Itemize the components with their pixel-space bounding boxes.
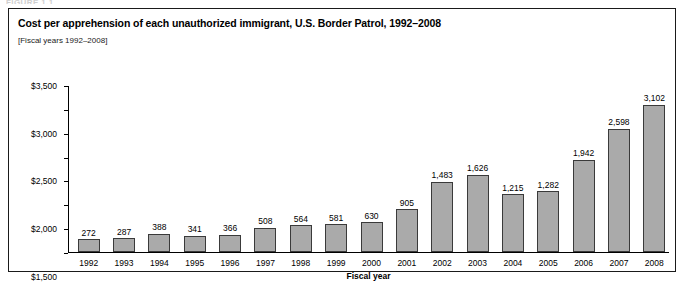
x-axis-tick-label: 1998 — [283, 258, 318, 268]
bar — [396, 209, 418, 252]
bar — [537, 191, 559, 252]
x-axis-tick-label: 2006 — [566, 258, 601, 268]
bar — [608, 129, 630, 252]
bar-column: 2,598 — [608, 86, 630, 252]
bar-value-label: 2,598 — [608, 118, 629, 127]
x-axis-tick-label: 2004 — [495, 258, 530, 268]
x-axis-title: Fiscal year — [68, 271, 669, 281]
x-axis-tick-label: 2003 — [460, 258, 495, 268]
bar-value-label: 1,282 — [538, 181, 559, 190]
bar — [219, 235, 241, 252]
plot-area: $0$500$1,000$1,500$2,000$2,500$3,000$3,5… — [68, 86, 669, 253]
x-axis-tick-label: 1996 — [212, 258, 247, 268]
bar — [78, 239, 100, 252]
y-axis-tick-label: $3,500 — [31, 81, 57, 91]
x-axis-tick-label: 1997 — [248, 258, 283, 268]
bar — [431, 182, 453, 252]
bar-column: 1,626 — [467, 86, 489, 252]
bar-column: 905 — [396, 86, 418, 252]
bar-column: 1,483 — [431, 86, 453, 252]
x-axis-tick-label: 1999 — [318, 258, 353, 268]
bar — [184, 236, 206, 252]
bar-value-label: 3,102 — [644, 94, 665, 103]
bar-value-label: 1,942 — [573, 149, 594, 158]
y-axis-tick-label: $2,500 — [31, 176, 57, 186]
chart-title: Cost per apprehension of each unauthoriz… — [18, 17, 441, 29]
bar-value-label: 272 — [82, 229, 96, 238]
bar — [113, 238, 135, 252]
bar — [361, 222, 383, 252]
y-axis-tick-label: $3,000 — [31, 129, 57, 139]
bar-value-label: 905 — [400, 199, 414, 208]
y-tick: $0 — [64, 253, 68, 254]
bar — [467, 175, 489, 252]
x-axis-tick-label: 1992 — [71, 258, 106, 268]
bar-column: 1,215 — [502, 86, 524, 252]
bar-value-label: 581 — [329, 214, 343, 223]
bar-value-label: 287 — [117, 228, 131, 237]
figure-number-fragment: FIGURE 1.1 — [6, 0, 54, 4]
x-axis-tick-label: 2000 — [354, 258, 389, 268]
bar-value-label: 1,215 — [502, 184, 523, 193]
bar-column: 1,942 — [573, 86, 595, 252]
x-axis-tick-label: 1995 — [177, 258, 212, 268]
bar — [148, 234, 170, 252]
bar-column: 341 — [184, 86, 206, 252]
x-axis-tick-label: 2005 — [531, 258, 566, 268]
x-axis-tick-label: 2007 — [601, 258, 636, 268]
x-axis-tick-label: 1993 — [106, 258, 141, 268]
figure-container: Cost per apprehension of each unauthoriz… — [8, 8, 676, 272]
bar-column: 1,282 — [537, 86, 559, 252]
bar — [325, 224, 347, 252]
bar-column: 564 — [290, 86, 312, 252]
bar-column: 630 — [361, 86, 383, 252]
bar-series: 2722873883413665085645816309051,4831,626… — [68, 86, 669, 252]
bar-value-label: 341 — [188, 225, 202, 234]
bar — [573, 160, 595, 252]
bar-column: 366 — [219, 86, 241, 252]
x-axis-tick-label: 2002 — [425, 258, 460, 268]
bar-column: 272 — [78, 86, 100, 252]
x-axis-tick-label: 2008 — [637, 258, 672, 268]
bar-value-label: 366 — [223, 224, 237, 233]
x-axis-line — [68, 252, 669, 253]
bar-column: 3,102 — [643, 86, 665, 252]
bar-value-label: 1,626 — [467, 164, 488, 173]
bar-value-label: 1,483 — [432, 171, 453, 180]
bar — [290, 225, 312, 252]
chart-subtitle: [Fiscal years 1992–2008] — [18, 36, 107, 45]
bar-value-label: 630 — [364, 212, 378, 221]
chart-page: FIGURE 1.1 Cost per apprehension of each… — [0, 0, 684, 284]
bar-column: 581 — [325, 86, 347, 252]
bar-value-label: 388 — [152, 223, 166, 232]
bar-value-label: 508 — [258, 217, 272, 226]
bar — [643, 105, 665, 252]
bar-column: 508 — [254, 86, 276, 252]
x-axis-tick-label: 2001 — [389, 258, 424, 268]
bar-column: 287 — [113, 86, 135, 252]
bar — [254, 228, 276, 252]
y-axis-tick-label: $2,000 — [31, 224, 57, 234]
bar-column: 388 — [148, 86, 170, 252]
bar-value-label: 564 — [294, 215, 308, 224]
x-axis-tick-label: 1994 — [142, 258, 177, 268]
y-axis-tick-label: $1,500 — [31, 272, 57, 282]
bar — [502, 194, 524, 252]
